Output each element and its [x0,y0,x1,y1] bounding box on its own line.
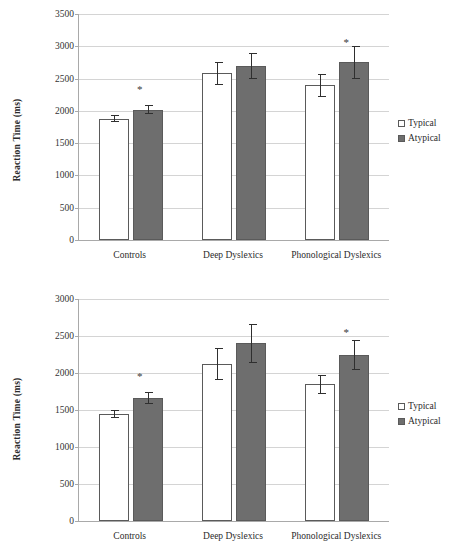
error-bar-cap-bottom [249,78,257,79]
y-axis-tick-label: 1000 [55,442,79,452]
error-bar-cap-top [111,410,119,411]
error-bar-cap-top [318,74,326,75]
plot-area-bottom: 050010001500200025003000** [78,299,389,522]
significance-asterisk: * [344,327,350,338]
error-bar-cap-top [215,348,223,349]
error-bar-cap-top [249,53,257,54]
chart-panel-top: Reaction Time (ms) 050010001500200025003… [0,0,456,279]
error-bar-cap-top [145,392,153,393]
y-axis-tick-label: 0 [69,235,79,245]
y-axis-tick-label: 3500 [55,9,79,19]
error-bar [114,115,115,122]
y-axis-title-bottom: Reaction Time (ms) [8,279,26,559]
y-axis-tick-label: 2000 [55,106,79,116]
bar-typical-phonological-dyslexics [305,85,335,240]
y-axis-tick-label: 2500 [55,331,79,341]
gridline [79,521,389,522]
error-bar-cap-top [352,46,360,47]
bar-atypical-deep-dyslexics [236,343,266,521]
x-axis-category-label: Phonological Dyslexics [291,531,381,541]
error-bar-cap-top [145,105,153,106]
legend-item-typical: Typical [398,401,441,411]
legend-swatch-atypical-icon [398,418,405,425]
bar-typical-phonological-dyslexics [305,384,335,521]
bar-atypical-controls [133,110,163,240]
legend-bottom: TypicalAtypical [398,401,441,426]
gridline [79,240,389,241]
y-axis-tick-label: 500 [60,479,79,489]
error-bar-cap-bottom [215,379,223,380]
y-axis-title-top: Reaction Time (ms) [8,0,26,279]
error-bar-cap-bottom [215,84,223,85]
legend-swatch-typical-icon [398,403,405,410]
significance-asterisk: * [344,37,350,48]
bar-typical-controls [99,414,129,521]
gridline [79,14,389,15]
bar-typical-deep-dyslexics [202,364,232,521]
legend-item-typical: Typical [398,118,441,128]
bar-atypical-deep-dyslexics [236,66,266,240]
x-axis-category-label: Controls [113,531,146,541]
legend-swatch-atypical-icon [398,135,405,142]
x-axis-category-label: Deep Dyslexics [203,250,263,260]
y-axis-tick-label: 1500 [55,138,79,148]
chart-panel-bottom: Reaction Time (ms) 050010001500200025003… [0,279,456,559]
x-axis-category-label: Phonological Dyslexics [291,250,381,260]
legend-label: Atypical [408,133,441,143]
error-bar-cap-bottom [111,121,119,122]
x-axis-category-label: Deep Dyslexics [203,531,263,541]
legend-item-atypical: Atypical [398,133,441,143]
error-bar-cap-bottom [318,393,326,394]
gridline [79,336,389,337]
y-axis-tick-label: 500 [60,203,79,213]
legend-swatch-typical-icon [398,120,405,127]
error-bar-cap-top [352,340,360,341]
error-bar-cap-bottom [249,362,257,363]
error-bar-cap-bottom [111,417,119,418]
legend-label: Typical [408,118,436,128]
legend-label: Typical [408,401,436,411]
significance-asterisk: * [137,371,143,382]
error-bar-cap-bottom [145,113,153,114]
gridline [79,46,389,47]
legend-label: Atypical [408,416,441,426]
error-bar [114,410,115,418]
error-bar-cap-top [111,115,119,116]
y-axis-tick-label: 3000 [55,294,79,304]
error-bar-cap-bottom [352,78,360,79]
error-bar-cap-bottom [318,96,326,97]
y-axis-tick-label: 0 [69,516,79,526]
x-axis-category-label: Controls [113,250,146,260]
error-bar-cap-top [215,62,223,63]
error-bar [320,375,321,394]
bar-typical-controls [99,119,129,240]
y-axis-tick-label: 1000 [55,170,79,180]
error-bar [148,392,149,405]
error-bar [217,62,218,85]
error-bar-cap-bottom [352,369,360,370]
gridline [79,299,389,300]
y-axis-tick-label: 2500 [55,74,79,84]
error-bar [320,74,321,97]
error-bar [354,340,355,370]
y-axis-tick-label: 3000 [55,41,79,51]
error-bar-cap-top [318,375,326,376]
legend-item-atypical: Atypical [398,416,441,426]
bar-atypical-phonological-dyslexics [339,355,369,521]
error-bar [251,53,252,78]
legend-top: TypicalAtypical [398,118,441,143]
error-bar [148,105,149,115]
error-bar-cap-top [249,324,257,325]
error-bar-cap-bottom [145,403,153,404]
bar-atypical-controls [133,398,163,521]
y-axis-tick-label: 2000 [55,368,79,378]
bar-atypical-phonological-dyslexics [339,62,369,240]
error-bar [217,348,218,381]
y-axis-tick-label: 1500 [55,405,79,415]
plot-area-top: 0500100015002000250030003500** [78,14,389,241]
error-bar [251,324,252,363]
significance-asterisk: * [137,84,143,95]
error-bar [354,46,355,79]
bar-typical-deep-dyslexics [202,73,232,240]
